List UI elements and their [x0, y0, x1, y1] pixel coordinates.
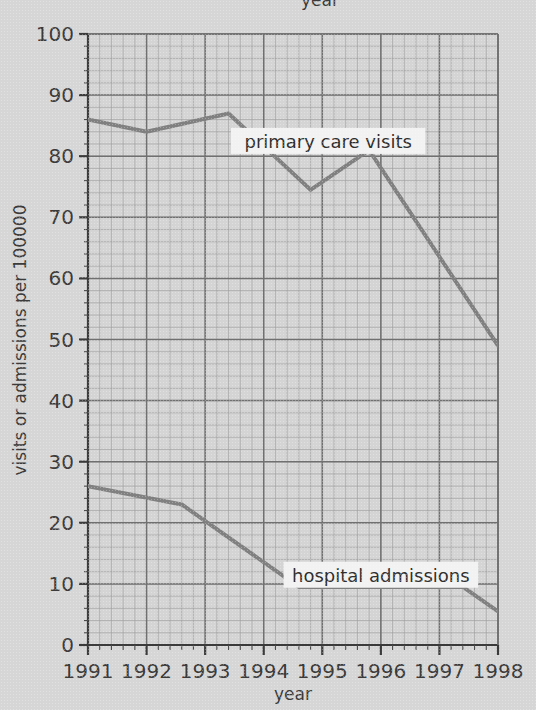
x-axis-ticks [88, 645, 498, 655]
y-tick-label: 40 [49, 389, 74, 413]
series-annotation-label: hospital admissions [292, 565, 470, 586]
y-tick-label: 10 [49, 572, 74, 596]
x-tick-label: 1995 [297, 659, 348, 683]
x-tick-label: 1996 [355, 659, 406, 683]
x-axis-title: year [274, 684, 312, 704]
y-axis-tick-labels: 0102030405060708090100 [36, 22, 74, 657]
y-tick-label: 70 [49, 205, 74, 229]
x-axis-tick-labels: 19911992199319941995199619971998 [63, 659, 524, 683]
cropped-top-label: year [301, 0, 339, 10]
x-tick-label: 1998 [473, 659, 524, 683]
series-annotation-label: primary care visits [244, 131, 411, 152]
x-tick-label: 1994 [238, 659, 289, 683]
x-tick-label: 1992 [121, 659, 172, 683]
y-tick-label: 30 [49, 450, 74, 474]
y-tick-label: 50 [49, 328, 74, 352]
x-tick-label: 1993 [180, 659, 231, 683]
y-axis-ticks [79, 34, 88, 645]
x-tick-label: 1991 [63, 659, 114, 683]
y-tick-label: 100 [36, 22, 74, 46]
y-tick-label: 60 [49, 266, 74, 290]
y-tick-label: 20 [49, 511, 74, 535]
x-tick-label: 1997 [414, 659, 465, 683]
chart-figure: year 0102030405060708090100 199119921993… [0, 0, 536, 710]
y-tick-label: 80 [49, 144, 74, 168]
line-chart: year 0102030405060708090100 199119921993… [0, 0, 536, 710]
y-tick-label: 90 [49, 83, 74, 107]
y-tick-label: 0 [61, 633, 74, 657]
y-axis-title: visits or admissions per 100000 [10, 205, 30, 476]
